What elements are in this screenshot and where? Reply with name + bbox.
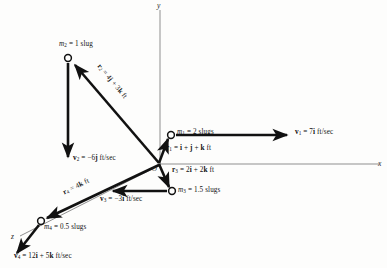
particle-node-m1 (168, 132, 175, 139)
particle-node-m2 (65, 55, 72, 62)
position-vector-r2 (75, 65, 159, 163)
mass-subscript-m2: 2 (64, 42, 67, 48)
z-axis-label: z (11, 232, 14, 241)
v4-plus: + 5 (38, 252, 50, 260)
v2-unit: ft/sec (98, 154, 116, 162)
r3-plus: + 2 (192, 166, 204, 174)
mass-value-m2: = 1 slug (69, 40, 93, 48)
position-label-r1: r1 = i + j + k ft (166, 145, 211, 152)
v2-subscript: 2 (77, 156, 80, 162)
velocity-label-v4: v4 = 12i + 5k ft/sec (14, 253, 72, 260)
v4-unit: ft/sec (54, 252, 72, 260)
velocity-vector-v4 (17, 225, 39, 253)
r3-subscript: 3 (175, 168, 178, 174)
x-axis-label: x (378, 159, 381, 168)
position-vector-r3 (159, 164, 169, 187)
mass-value-m4: = 0.5 slugs (54, 223, 87, 231)
particle-node-m3 (169, 188, 176, 195)
mass-label-m4: m4 = 0.5 slugs (44, 224, 86, 231)
mass-label-m3: m3 = 1.5 slugs (178, 187, 220, 194)
v1-unit: ft/sec (315, 128, 333, 136)
v4-eq: = 12 (22, 252, 35, 260)
v3-subscript: 3 (104, 197, 107, 203)
mass-subscript-m4: 4 (49, 225, 52, 231)
r3-eq: = 2 (180, 166, 190, 174)
y-axis-label: y (157, 1, 160, 10)
velocity-label-v2: v2 = −6j ft/sec (73, 155, 116, 162)
mass-value-m3: = 1.5 slugs (188, 186, 221, 194)
mass-subscript-m1: 1 (182, 130, 185, 136)
r1-plus-1: + (182, 144, 190, 152)
velocity-label-v3: v3 = −3i ft/sec (100, 196, 142, 203)
r1-unit: ft (205, 144, 212, 152)
vector-diagram-figure: y x z O m2 = 1 slug r2 = 4j + 3k ft v2 =… (0, 0, 387, 268)
mass-value-m1: = 2 slugs (187, 128, 214, 136)
v1-subscript: 1 (299, 130, 302, 136)
r3-unit: ft (208, 166, 215, 174)
v3-unit: ft/sec (124, 195, 142, 203)
mass-label-m1: m1 = 2 slugs (177, 129, 214, 136)
r1-subscript: 1 (169, 146, 172, 152)
v1-eq: = 7 (303, 128, 313, 136)
v4-subscript: 4 (18, 254, 21, 260)
mass-label-m2: m2 = 1 slug (59, 41, 93, 48)
v3-eq: = −3 (108, 195, 122, 203)
v2-eq: = −6 (81, 154, 95, 162)
position-label-r3: r3 = 2i + 2k ft (172, 167, 214, 174)
velocity-label-v1: v1 = 7i ft/sec (295, 129, 333, 136)
origin-label: O (152, 165, 157, 172)
mass-subscript-m3: 3 (183, 188, 186, 194)
